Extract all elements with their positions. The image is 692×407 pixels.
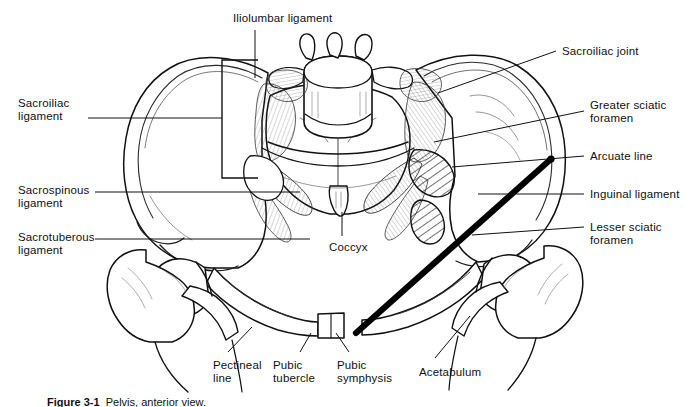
label-sacroiliac-ligament: Sacroiliacligament (18, 97, 69, 123)
right-femur-shaft-edge (508, 338, 536, 390)
bone-outlines (107, 33, 583, 392)
label-sacrotuberous-ligament-line2: ligament (18, 244, 63, 256)
label-sacroiliac-ligament-line2: ligament (18, 110, 63, 122)
label-lesser-sciatic-foramen-line1: Lesser sciatic (590, 221, 662, 233)
spinous-process-left (300, 34, 315, 60)
label-coccyx: Coccyx (329, 241, 368, 254)
anatomy-figure: Iliolumbar ligament Sacroiliac joint Sac… (0, 0, 692, 407)
right-femur-shaft-edge2 (449, 336, 458, 390)
right-iliolumbar-ligament-fibers (400, 68, 442, 101)
label-lesser-sciatic-foramen-line2: foramen (590, 234, 633, 246)
lesser-sciatic-foramen (411, 200, 445, 244)
label-pectineal-line-line1: Pectineal (213, 359, 262, 371)
label-iliolumbar-ligament: Iliolumbar ligament (233, 12, 332, 25)
leader-acetabulum (435, 316, 470, 358)
pelvis-illustration (0, 0, 692, 407)
label-arcuate-line: Arcuate line (590, 150, 653, 163)
label-sacroiliac-joint: Sacroiliac joint (562, 45, 639, 58)
label-pubic-tubercle-line1: Pubic (273, 359, 303, 371)
label-sacrotuberous-ligament: Sacrotuberousligament (18, 231, 95, 257)
label-greater-sciatic-foramen-line2: foramen (590, 112, 633, 124)
vertebral-endplate-top (304, 56, 372, 88)
spinous-process-right (355, 34, 372, 60)
label-sacrospinous-ligament-line1: Sacrospinous (18, 184, 89, 196)
label-greater-sciatic-foramen: Greater sciaticforamen (590, 99, 666, 125)
label-sacrotuberous-ligament-line1: Sacrotuberous (18, 231, 95, 243)
label-lesser-sciatic-foramen: Lesser sciaticforamen (590, 221, 662, 247)
label-pectineal-line-line2: line (213, 372, 232, 384)
label-inguinal-ligament: Inguinal ligament (590, 188, 680, 201)
label-sacrospinous-ligament-line2: ligament (18, 197, 63, 209)
figure-caption-number: Figure 3-1 (47, 396, 100, 407)
figure-caption-text: Pelvis, anterior view. (100, 396, 206, 407)
spinous-process-mid (327, 33, 342, 58)
label-sacroiliac-ligament-line1: Sacroiliac (18, 97, 69, 109)
label-greater-sciatic-foramen-line1: Greater sciatic (590, 99, 666, 111)
label-sacrospinous-ligament: Sacrospinousligament (18, 184, 89, 210)
label-acetabulum: Acetabulum (419, 366, 481, 379)
left-femur-shaft-edge (155, 342, 188, 392)
label-pubic-tubercle: Pubictubercle (273, 359, 315, 385)
label-pubic-tubercle-line2: tubercle (273, 372, 315, 384)
figure-caption: Figure 3-1 Pelvis, anterior view. (47, 396, 206, 407)
label-pubic-symphysis: Pubicsymphysis (337, 359, 392, 385)
label-pubic-symphysis-line2: symphysis (337, 372, 392, 384)
label-pectineal-line: Pectinealline (213, 359, 262, 385)
label-pubic-symphysis-line1: Pubic (337, 359, 367, 371)
